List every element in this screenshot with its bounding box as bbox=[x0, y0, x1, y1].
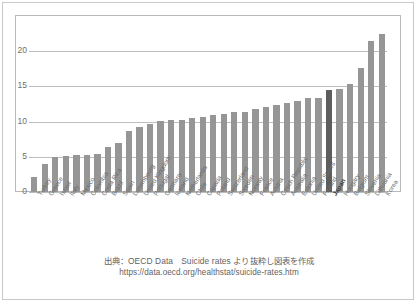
bar-lithuania bbox=[368, 41, 374, 192]
chart-footer: 出典：OECD Data Suicide rates より抜粋し図表を作成 ht… bbox=[15, 255, 403, 279]
y-tick-label-0: 0 bbox=[5, 187, 27, 196]
bar-hungary bbox=[336, 89, 342, 192]
chart-figure: 05101520 TurkeyGreeceIsraelItalyMexicoCo… bbox=[2, 2, 414, 300]
source-citation: 出典：OECD Data Suicide rates より抜粋し図表を作成 bbox=[15, 255, 403, 267]
x-axis-category-labels: TurkeyGreeceIsraelItalyMexicoColombiaCos… bbox=[29, 193, 401, 249]
source-url: https://data.oecd.org/healthstat/suicide… bbox=[15, 267, 403, 279]
y-tick-label-20: 20 bbox=[5, 46, 27, 55]
y-tick-label-15: 15 bbox=[5, 81, 27, 90]
bar-korea bbox=[379, 34, 385, 192]
y-tick-label-10: 10 bbox=[5, 117, 27, 126]
y-axis-ticks: 05101520 bbox=[3, 16, 27, 192]
y-tick-label-5: 5 bbox=[5, 152, 27, 161]
